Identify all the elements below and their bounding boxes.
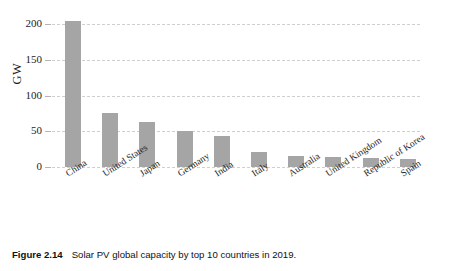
y-axis-tick-mark — [45, 131, 51, 132]
figure-caption: Figure 2.14Solar PV global capacity by t… — [12, 249, 452, 260]
caption-label: Figure 2.14 — [12, 249, 63, 260]
bar-chart: GW 050100150200 ChinaUnited StatesJapanG… — [0, 0, 456, 236]
gridline — [52, 60, 420, 61]
y-axis-title: GW — [10, 63, 25, 85]
y-axis-tick-mark — [45, 96, 51, 97]
y-axis-tick-mark — [45, 24, 51, 25]
caption-text: Solar PV global capacity by top 10 count… — [72, 249, 297, 260]
y-axis-tick-mark — [45, 167, 51, 168]
gridline — [52, 24, 420, 25]
y-axis-tick-label: 200 — [8, 18, 42, 29]
gridline — [52, 96, 420, 97]
y-axis-tick-label: 100 — [8, 90, 42, 101]
y-axis-tick-label: 50 — [8, 125, 42, 136]
y-axis-tick-label: 0 — [8, 161, 42, 172]
y-axis-tick-mark — [45, 60, 51, 61]
y-axis-tick-label: 150 — [8, 54, 42, 65]
figure-page: GW 050100150200 ChinaUnited StatesJapanG… — [0, 0, 456, 271]
bar — [65, 21, 81, 167]
